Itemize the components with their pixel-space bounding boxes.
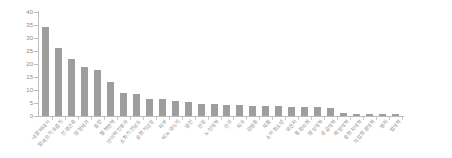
x-tick-mark bbox=[363, 117, 364, 120]
y-tick-mark bbox=[34, 51, 38, 52]
x-tick-mark bbox=[246, 117, 247, 120]
x-tick-mark bbox=[259, 117, 260, 120]
x-tick-mark bbox=[104, 117, 105, 120]
bar bbox=[107, 82, 114, 116]
x-tick-mark bbox=[195, 117, 196, 120]
y-tick-mark bbox=[34, 77, 38, 78]
x-tick-mark bbox=[324, 117, 325, 120]
x-tick-mark bbox=[350, 117, 351, 120]
y-tick-mark bbox=[34, 64, 38, 65]
y-tick-label: 10 bbox=[26, 87, 33, 93]
y-tick-mark bbox=[34, 116, 38, 117]
x-tick-mark bbox=[233, 117, 234, 120]
y-tick-label: 35 bbox=[26, 22, 33, 28]
y-tick-mark bbox=[34, 103, 38, 104]
x-tick-mark bbox=[402, 117, 403, 120]
x-axis-labels: 내분비대사알레르기호흡기신경근육정형외과종양혈액면역안이비인후과소화기간담도순환… bbox=[0, 118, 452, 158]
x-tick-mark bbox=[91, 117, 92, 120]
x-tick-mark bbox=[208, 117, 209, 120]
x-tick-label-text: 정신 bbox=[183, 118, 194, 129]
y-tick-label: 25 bbox=[26, 48, 33, 54]
y-tick-label: 30 bbox=[26, 35, 33, 41]
y-tick-mark bbox=[34, 25, 38, 26]
x-tick-mark bbox=[311, 117, 312, 120]
x-tick-mark bbox=[156, 117, 157, 120]
x-tick-label-text: 병리 bbox=[378, 118, 389, 129]
x-tick-label-text: 산과 bbox=[222, 118, 233, 129]
x-tick-mark bbox=[272, 117, 273, 120]
x-tick-mark bbox=[130, 117, 131, 120]
x-tick-mark bbox=[78, 117, 79, 120]
x-tick-mark bbox=[143, 117, 144, 120]
x-tick-mark bbox=[285, 117, 286, 120]
x-tick-mark bbox=[65, 117, 66, 120]
x-tick-mark bbox=[389, 117, 390, 120]
x-tick-mark bbox=[298, 117, 299, 120]
y-tick-label: 20 bbox=[26, 61, 33, 67]
y-tick-mark bbox=[34, 90, 38, 91]
bar-series bbox=[39, 12, 403, 116]
x-tick-mark bbox=[376, 117, 377, 120]
x-tick-mark bbox=[221, 117, 222, 120]
y-tick-label: 15 bbox=[26, 74, 33, 80]
bar bbox=[42, 27, 49, 116]
chart-container: 0510152025303540 내분비대사알레르기호흡기신경근육정형외과종양혈… bbox=[0, 0, 452, 158]
x-tick-mark bbox=[337, 117, 338, 120]
x-tick-mark bbox=[169, 117, 170, 120]
y-tick-label: 40 bbox=[26, 9, 33, 15]
y-tick-label: 5 bbox=[30, 100, 33, 106]
y-tick-mark bbox=[34, 12, 38, 13]
x-tick-mark bbox=[182, 117, 183, 120]
x-tick-mark bbox=[117, 117, 118, 120]
y-tick-mark bbox=[34, 38, 38, 39]
x-tick-mark bbox=[52, 117, 53, 120]
